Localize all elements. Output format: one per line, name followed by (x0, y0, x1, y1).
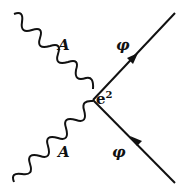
label-scalar-top: φ (116, 36, 130, 54)
photon-line-bottom (13, 101, 93, 182)
label-scalar-bottom: φ (112, 143, 126, 161)
photon-line-top (14, 13, 93, 89)
feynman-diagram: A A φ φ e2 (0, 0, 185, 196)
arrow-incoming-icon (130, 136, 142, 146)
label-vertex: e2 (96, 89, 113, 108)
label-photon-bottom: A (56, 143, 70, 161)
label-photon-top: A (56, 36, 70, 54)
label-vertex-sup: 2 (106, 89, 113, 100)
